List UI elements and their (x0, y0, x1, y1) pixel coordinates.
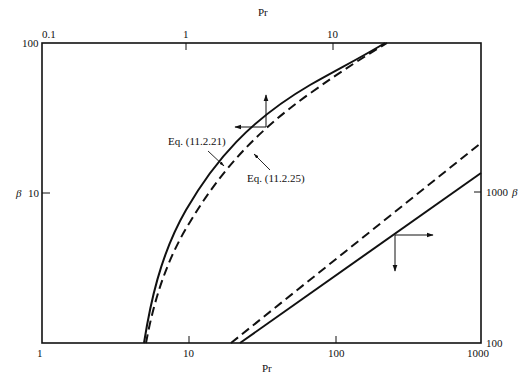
annotation-eq-11-2-21: Eq. (11.2.21) (168, 135, 226, 148)
chart: 0.1 1 10 Pr 1 10 100 1000 Pr 100 10 β 10… (0, 0, 531, 382)
right-axis-title: β (511, 186, 518, 198)
top-tick-label: 10 (327, 28, 339, 40)
leader-eq-11-2-25 (254, 154, 270, 170)
line-eq-11-2-21-lower (240, 173, 481, 343)
upper-axis-indicator-arrows (235, 95, 266, 127)
right-tick-label: 100 (486, 337, 503, 349)
plot-frame (42, 43, 481, 343)
bottom-tick-label: 1 (37, 347, 43, 359)
left-axis-title: β (15, 187, 22, 199)
annotation-eq-11-2-25: Eq. (11.2.25) (247, 172, 305, 185)
curve-eq-11-2-21-upper (144, 43, 385, 343)
top-tick-label: 1 (183, 28, 189, 40)
lower-axis-indicator-arrows (395, 235, 433, 271)
bottom-axis-title: Pr (262, 362, 272, 374)
bottom-tick-label: 100 (328, 347, 345, 359)
curve-eq-11-2-25-upper (146, 43, 387, 343)
bottom-tick-label: 10 (183, 347, 195, 359)
top-axis-title: Pr (258, 6, 268, 18)
right-tick-label: 1000 (486, 186, 509, 198)
bottom-axis: 1 10 100 1000 Pr (37, 336, 490, 374)
left-axis: 100 10 β (15, 37, 50, 199)
left-tick-label: 10 (28, 187, 40, 199)
left-tick-label: 100 (22, 37, 39, 49)
top-tick-label: 0.1 (42, 28, 56, 40)
